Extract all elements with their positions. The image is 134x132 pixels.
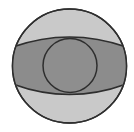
diagram-canvas <box>0 0 134 132</box>
inner-circle <box>43 39 97 93</box>
